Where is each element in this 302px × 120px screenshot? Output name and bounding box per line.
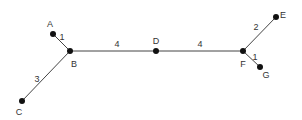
node-c <box>19 98 25 104</box>
edge-weight-b-c: 3 <box>34 74 39 84</box>
edges-layer <box>22 17 276 101</box>
node-label-a: A <box>47 19 53 29</box>
tree-diagram: 134421 ABCDFEG <box>0 0 302 120</box>
edge-weight-f-g: 1 <box>252 52 257 62</box>
node-label-f: F <box>240 59 246 69</box>
node-label-e: E <box>280 10 286 20</box>
node-d <box>153 48 159 54</box>
node-e <box>273 14 279 20</box>
edge-weight-a-b: 1 <box>59 32 64 42</box>
node-labels-layer: ABCDFEG <box>16 10 286 117</box>
edge-weight-d-f: 4 <box>197 39 202 49</box>
node-label-c: C <box>16 107 23 117</box>
node-g <box>257 64 263 70</box>
node-a <box>50 31 56 37</box>
node-label-b: B <box>71 59 77 69</box>
edge-weight-f-e: 2 <box>253 22 258 32</box>
node-f <box>240 48 246 54</box>
node-b <box>67 48 73 54</box>
node-label-d: D <box>153 36 160 46</box>
diagram-canvas: 134421 ABCDFEG <box>0 0 302 120</box>
node-label-g: G <box>262 70 269 80</box>
edge-b-c <box>22 51 70 101</box>
edge-f-e <box>243 17 276 51</box>
edge-weight-b-d: 4 <box>114 39 119 49</box>
